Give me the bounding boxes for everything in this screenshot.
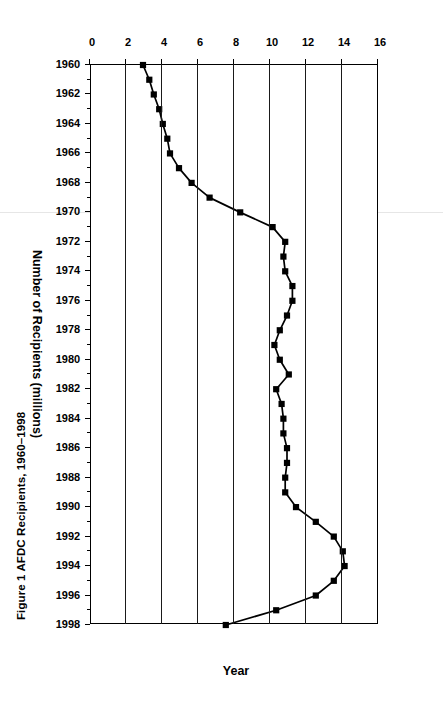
- year-tick-mark-minor: [87, 226, 90, 227]
- data-point-marker: [313, 592, 319, 598]
- year-tick-mark-minor: [87, 344, 90, 345]
- gridline: [125, 64, 126, 624]
- gridline: [305, 64, 306, 624]
- year-tick-label: 1986: [45, 441, 91, 453]
- data-point-marker: [282, 475, 288, 481]
- data-point-marker: [289, 283, 295, 289]
- value-tick-label: 14: [327, 36, 361, 48]
- value-tick-mark: [377, 59, 378, 64]
- year-tick-mark-minor: [87, 256, 90, 257]
- data-point-marker: [273, 386, 279, 392]
- year-axis-title: Year: [223, 664, 249, 678]
- year-tick-label: 1972: [45, 235, 91, 247]
- data-point-marker: [342, 563, 348, 569]
- data-point-marker: [151, 91, 157, 97]
- year-tick-label: 1964: [45, 117, 91, 129]
- data-point-marker: [176, 165, 182, 171]
- data-point-marker: [189, 180, 195, 186]
- data-point-marker: [271, 342, 277, 348]
- year-tick-label: 1994: [45, 559, 91, 571]
- year-tick-mark-minor: [87, 432, 90, 433]
- series-polyline: [143, 65, 345, 625]
- data-point-marker: [277, 327, 283, 333]
- data-point-marker: [280, 416, 286, 422]
- data-point-marker: [207, 195, 213, 201]
- year-tick-mark-minor: [87, 580, 90, 581]
- data-point-marker: [167, 150, 173, 156]
- data-point-marker: [331, 578, 337, 584]
- data-point-marker: [282, 268, 288, 274]
- data-point-marker: [313, 519, 319, 525]
- year-tick-label: 1998: [45, 618, 91, 630]
- gridline: [269, 64, 270, 624]
- year-tick-label: 1996: [45, 589, 91, 601]
- data-point-marker: [282, 239, 288, 245]
- data-point-marker: [280, 253, 286, 259]
- year-tick-mark-minor: [87, 462, 90, 463]
- value-tick-label: 8: [219, 36, 253, 48]
- data-point-marker: [284, 445, 290, 451]
- gridline: [233, 64, 234, 624]
- value-tick-label: 0: [75, 36, 109, 48]
- year-tick-mark-minor: [87, 108, 90, 109]
- year-tick-label: 1960: [45, 58, 91, 70]
- value-tick-label: 10: [255, 36, 289, 48]
- year-tick-label: 1988: [45, 471, 91, 483]
- year-tick-label: 1962: [45, 87, 91, 99]
- value-tick-mark: [341, 59, 342, 64]
- year-tick-label: 1966: [45, 146, 91, 158]
- data-point-marker: [273, 607, 279, 613]
- data-point-marker: [237, 209, 243, 215]
- data-point-marker: [284, 460, 290, 466]
- year-tick-label: 1976: [45, 294, 91, 306]
- data-point-marker: [279, 401, 285, 407]
- year-tick-mark-minor: [87, 315, 90, 316]
- value-tick-label: 2: [111, 36, 145, 48]
- year-tick-label: 1968: [45, 176, 91, 188]
- value-tick-mark: [125, 59, 126, 64]
- year-tick-mark-minor: [87, 373, 90, 374]
- data-point-marker: [277, 357, 283, 363]
- value-tick-label: 6: [183, 36, 217, 48]
- year-tick-mark-minor: [87, 138, 90, 139]
- year-tick-mark-minor: [87, 197, 90, 198]
- data-point-marker: [223, 622, 229, 628]
- gridline: [161, 64, 162, 624]
- year-tick-mark-minor: [87, 491, 90, 492]
- year-tick-label: 1982: [45, 382, 91, 394]
- data-point-marker: [140, 62, 146, 68]
- value-tick-mark: [161, 59, 162, 64]
- gridline: [197, 64, 198, 624]
- year-tick-label: 1978: [45, 323, 91, 335]
- year-tick-mark-minor: [87, 79, 90, 80]
- value-axis-title: Number of Recipients (millions): [30, 64, 44, 624]
- data-point-marker: [293, 504, 299, 510]
- data-point-marker: [146, 77, 152, 83]
- year-tick-mark-minor: [87, 609, 90, 610]
- data-point-marker: [280, 430, 286, 436]
- figure-caption: Figure 1 AFDC Recipients, 1960–1998: [10, 300, 32, 620]
- chart-canvas: 0246810121416 19601962196419661968197019…: [56, 18, 386, 638]
- value-tick-mark: [305, 59, 306, 64]
- year-tick-label: 1970: [45, 205, 91, 217]
- year-tick-mark-minor: [87, 167, 90, 168]
- year-tick-label: 1992: [45, 530, 91, 542]
- plot-area: [90, 64, 378, 624]
- year-tick-label: 1984: [45, 412, 91, 424]
- value-tick-label: 4: [147, 36, 181, 48]
- value-tick-mark: [197, 59, 198, 64]
- gridline: [341, 64, 342, 624]
- value-tick-mark: [269, 59, 270, 64]
- data-point-marker: [270, 224, 276, 230]
- data-point-marker: [331, 533, 337, 539]
- data-point-marker: [282, 489, 288, 495]
- year-tick-label: 1990: [45, 500, 91, 512]
- data-point-marker: [164, 136, 170, 142]
- value-tick-mark: [233, 59, 234, 64]
- year-tick-mark-minor: [87, 521, 90, 522]
- data-point-marker: [289, 298, 295, 304]
- figure-page: Figure 1 AFDC Recipients, 1960–1998 0246…: [0, 0, 443, 711]
- year-tick-label: 1974: [45, 264, 91, 276]
- value-tick-label: 12: [291, 36, 325, 48]
- data-point-marker: [284, 312, 290, 318]
